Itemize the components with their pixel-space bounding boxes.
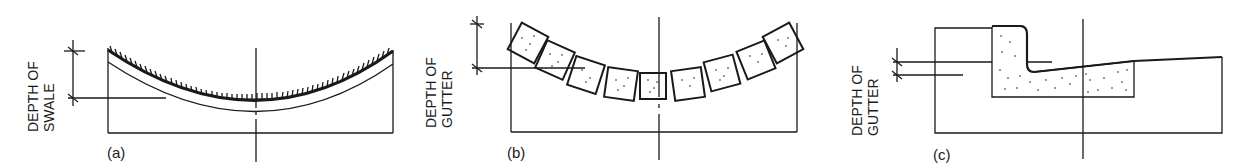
panel-b-label-line1: DEPTH OF — [423, 57, 439, 128]
panel-c-label-line1: DEPTH OF — [849, 65, 865, 136]
drainage-sections-diagram: DEPTH OF SWALE (a) — [0, 0, 1236, 166]
panel-b-paver-gutter: DEPTH OF GUTTER — [423, 16, 803, 161]
panel-a-grass-surface — [108, 50, 393, 100]
panel-a-label-line2: SWALE — [41, 84, 57, 133]
panel-b-caption: (b) — [507, 144, 525, 161]
panel-a-swale: DEPTH OF SWALE (a) — [25, 40, 393, 162]
panel-b-label-line2: GUTTER — [439, 70, 455, 128]
panel-c-label-line2: GUTTER — [865, 78, 881, 136]
panel-a-grass-tufts — [110, 46, 389, 100]
panel-b-paver-blocks — [508, 23, 804, 101]
panel-a-caption: (a) — [107, 144, 125, 161]
panel-c-concrete-gutter — [992, 26, 1134, 97]
panel-c-caption: (c) — [933, 146, 951, 163]
panel-c-curb-gutter: DEPTH OF GUTTER (c — [849, 19, 1222, 163]
panel-a-frame — [108, 48, 393, 133]
panel-b-paver-speckle — [521, 35, 789, 93]
panel-a-label-line1: DEPTH OF — [25, 61, 41, 132]
